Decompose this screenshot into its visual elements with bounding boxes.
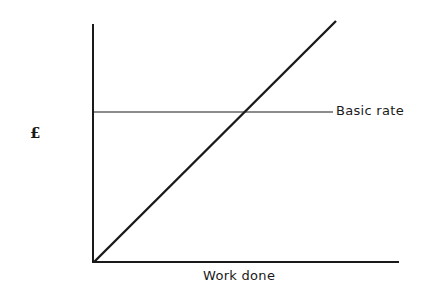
- earnings-line: [94, 21, 336, 262]
- diagram-canvas: [0, 0, 437, 298]
- y-axis-label: £: [30, 124, 40, 142]
- basic-rate-label: Basic rate: [336, 103, 404, 118]
- x-axis-label: Work done: [203, 268, 275, 283]
